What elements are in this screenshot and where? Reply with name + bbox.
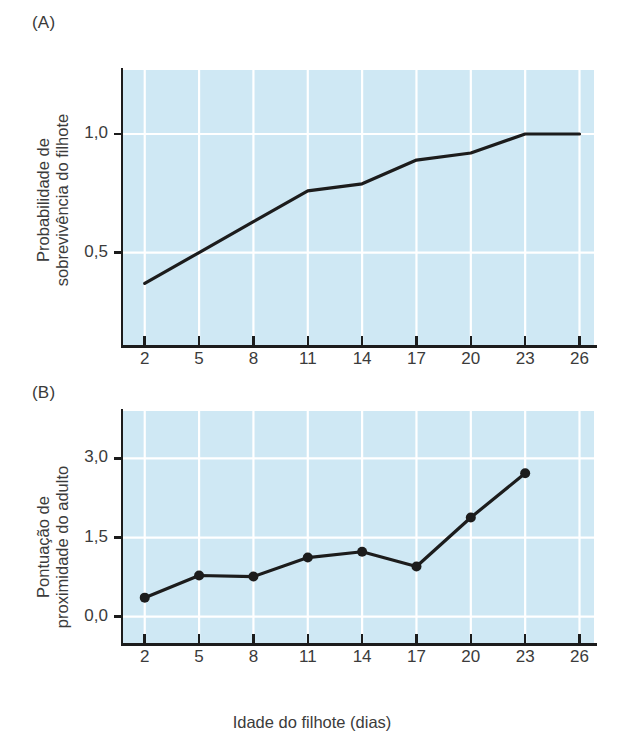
x-tick-label: 8 bbox=[236, 349, 270, 369]
panel-a-plot-area bbox=[123, 70, 594, 345]
panel-a-series-svg bbox=[123, 70, 594, 345]
x-tick-label: 8 bbox=[236, 647, 270, 667]
x-tick-mark bbox=[415, 336, 418, 345]
y-tick-label: 0,0 bbox=[62, 606, 108, 626]
x-tick-mark bbox=[198, 634, 201, 643]
panel-b-y-axis-line bbox=[121, 409, 124, 645]
data-point-marker bbox=[194, 571, 204, 581]
x-tick-mark bbox=[198, 336, 201, 345]
panel-a-y-axis-title-line2: sobrevivência do filhote bbox=[53, 60, 72, 340]
x-tick-label: 17 bbox=[399, 349, 433, 369]
x-tick-mark bbox=[578, 336, 581, 345]
data-point-marker bbox=[357, 547, 367, 557]
x-tick-label: 17 bbox=[399, 647, 433, 667]
x-tick-label: 11 bbox=[291, 647, 325, 667]
y-tick-label: 0,5 bbox=[62, 242, 108, 262]
x-tick-mark bbox=[578, 634, 581, 643]
data-point-marker bbox=[466, 513, 476, 523]
panel-a-x-axis-line bbox=[121, 345, 597, 348]
panel-a-y-axis-line bbox=[121, 68, 124, 347]
x-tick-mark bbox=[143, 634, 146, 643]
panel-a-y-axis-title-line1: Probabilidade de bbox=[34, 60, 53, 340]
data-point-marker bbox=[140, 593, 150, 603]
x-tick-label: 2 bbox=[128, 349, 162, 369]
panel-b-series-svg bbox=[123, 411, 594, 643]
x-tick-label: 2 bbox=[128, 647, 162, 667]
x-tick-mark bbox=[307, 336, 310, 345]
x-tick-mark bbox=[143, 336, 146, 345]
data-point-marker bbox=[520, 468, 530, 478]
figure-panels-a-b: (A) Probabilidade de sobrevivência do fi… bbox=[0, 0, 624, 753]
y-tick-mark bbox=[114, 615, 123, 618]
y-tick-mark bbox=[114, 457, 123, 460]
data-point-marker bbox=[303, 553, 313, 563]
data-point-marker bbox=[248, 572, 258, 582]
x-tick-label: 20 bbox=[454, 647, 488, 667]
panel-b-plot-area bbox=[123, 411, 594, 643]
x-tick-mark bbox=[524, 336, 527, 345]
x-tick-label: 20 bbox=[454, 349, 488, 369]
y-tick-label: 3,0 bbox=[62, 447, 108, 467]
x-tick-label: 14 bbox=[345, 647, 379, 667]
x-tick-mark bbox=[470, 336, 473, 345]
x-tick-mark bbox=[307, 634, 310, 643]
x-tick-label: 14 bbox=[345, 349, 379, 369]
x-axis-title: Idade do filhote (dias) bbox=[0, 713, 624, 732]
x-tick-label: 5 bbox=[182, 647, 216, 667]
y-tick-mark bbox=[114, 536, 123, 539]
panel-b-label: (B) bbox=[32, 383, 55, 403]
panel-b-y-axis-title-line1: Pontuação de bbox=[34, 416, 53, 678]
x-tick-label: 23 bbox=[508, 349, 542, 369]
y-tick-mark bbox=[114, 133, 123, 136]
x-tick-label: 23 bbox=[508, 647, 542, 667]
x-tick-mark bbox=[361, 634, 364, 643]
data-point-marker bbox=[411, 562, 421, 572]
y-tick-label: 1,0 bbox=[62, 123, 108, 143]
x-tick-mark bbox=[524, 634, 527, 643]
x-tick-label: 26 bbox=[563, 349, 597, 369]
x-tick-mark bbox=[415, 634, 418, 643]
x-tick-mark bbox=[252, 634, 255, 643]
panel-b-x-axis-line bbox=[121, 643, 597, 646]
x-tick-mark bbox=[361, 336, 364, 345]
y-tick-label: 1,5 bbox=[62, 527, 108, 547]
x-tick-mark bbox=[470, 634, 473, 643]
x-tick-mark bbox=[252, 336, 255, 345]
x-tick-label: 11 bbox=[291, 349, 325, 369]
x-tick-label: 5 bbox=[182, 349, 216, 369]
panel-a-y-axis-title: Probabilidade de sobrevivência do filhot… bbox=[34, 60, 73, 340]
y-tick-mark bbox=[114, 251, 123, 254]
x-tick-label: 26 bbox=[563, 647, 597, 667]
panel-a-label: (A) bbox=[32, 13, 55, 33]
